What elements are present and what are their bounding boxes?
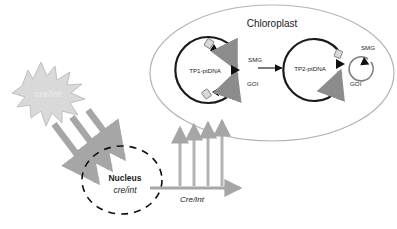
nuclear-import-arrows — [54, 110, 123, 181]
star-label: cre/int — [34, 89, 62, 99]
tp1-site-triangle-lower — [212, 86, 223, 97]
tp1-recombination-site-lower — [201, 86, 222, 100]
chloroplast-label: Chloroplast — [247, 18, 298, 29]
tp2-recombination-site-upper — [334, 49, 343, 58]
nucleus-gene-label: cre/int — [113, 185, 137, 195]
tp2-junction-triangle — [336, 59, 345, 69]
tp1-recombination-site-upper — [204, 38, 220, 55]
tp1-name-label: TP1-ptDNA — [189, 67, 222, 74]
plasmid-tp1: TP1-ptDNA SMG GOI — [175, 37, 262, 103]
cre-int-transport-label: Cre/Int — [180, 195, 205, 204]
nucleus-label: Nucleus — [108, 173, 141, 183]
diagram-canvas: Chloroplast TP1-ptDNA SMG GOI — [0, 0, 397, 229]
tp1-smg-label: SMG — [248, 56, 262, 63]
tp1-goi-segment — [230, 73, 236, 90]
cre-int-transport: Cre/Int — [150, 188, 240, 204]
smg-circle-triangle — [360, 57, 371, 69]
excised-smg-label: SMG — [361, 44, 375, 51]
tp1-goi-label: GOI — [247, 80, 259, 87]
tp2-goi-segment — [334, 72, 340, 88]
nuclear-arrow-1 — [54, 124, 97, 181]
tp2-name-label: TP2-ptDNA — [294, 65, 327, 72]
excised-smg-circle: SMG — [349, 44, 375, 81]
smg-circle-backbone — [349, 57, 373, 81]
chloroplast-import-arrows — [180, 121, 222, 186]
